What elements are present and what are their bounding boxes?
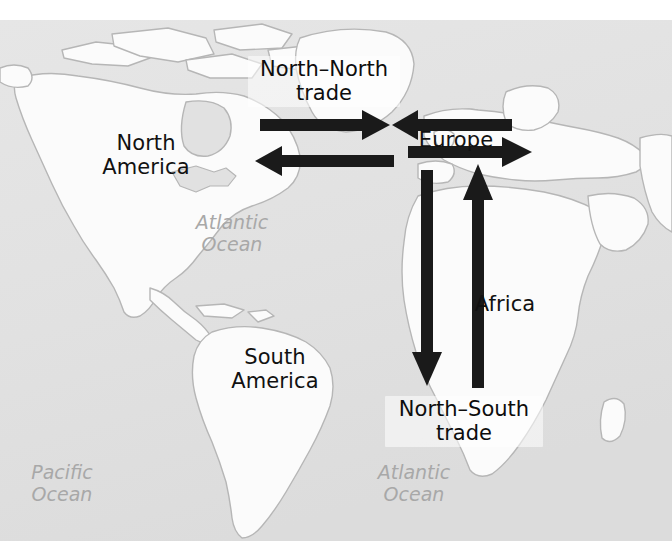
label-atlantic-ocean-north: Atlantic Ocean <box>188 212 276 256</box>
label-pacific-ocean: Pacific Ocean <box>18 462 106 506</box>
trade-map-figure: North America South America Europe Afric… <box>0 0 672 553</box>
label-north-north-trade: North–North trade <box>248 56 400 107</box>
alaska-icon <box>0 65 32 87</box>
label-europe: Europe <box>415 129 497 153</box>
label-north-south-trade: North–South trade <box>385 396 543 447</box>
label-atlantic-ocean-south: Atlantic Ocean <box>370 462 458 506</box>
label-africa: Africa <box>470 293 540 317</box>
label-south-america: South America <box>222 346 328 393</box>
iberia-icon <box>418 161 454 183</box>
label-north-america: North America <box>98 132 194 179</box>
